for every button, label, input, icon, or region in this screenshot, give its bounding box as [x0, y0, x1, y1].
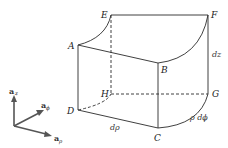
label-az: a: [9, 86, 14, 96]
arrowhead-z-icon: [11, 95, 17, 102]
label-E: E: [100, 10, 108, 20]
visible-edges: [78, 15, 208, 128]
dim-rho-dphi: ρ dϕ: [189, 113, 208, 122]
arrowhead-phi-icon: [36, 110, 44, 116]
hidden-edges: [78, 15, 208, 110]
arrowhead-rho-icon: [44, 131, 52, 137]
cylindrical-volume-element-diagram: E F A B H G D C dz dρ ρ dϕ a z a ϕ a ρ: [0, 0, 228, 148]
label-D: D: [66, 106, 74, 116]
dim-drho: dρ: [110, 123, 120, 132]
label-G: G: [212, 89, 219, 99]
label-arho-sub: ρ: [58, 138, 63, 145]
label-az-sub: z: [14, 90, 18, 96]
axis-rho-arrow: [14, 126, 46, 134]
label-C: C: [154, 133, 161, 143]
unit-vector-axes: a z a ϕ a ρ: [9, 86, 63, 145]
arc-BF: [158, 15, 208, 63]
label-aphi-sub: ϕ: [46, 105, 50, 112]
label-H: H: [100, 89, 109, 99]
label-F: F: [210, 10, 218, 20]
label-B: B: [160, 65, 168, 75]
arc-CG: [158, 94, 208, 128]
dim-dz: dz: [212, 50, 222, 59]
edge-AB: [78, 45, 158, 63]
label-A: A: [67, 41, 75, 51]
axis-phi-arrow: [14, 113, 39, 126]
